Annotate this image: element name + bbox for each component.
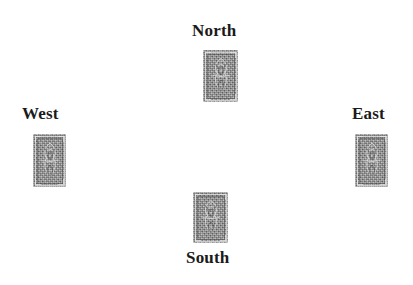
card-back-east[interactable] bbox=[355, 134, 388, 187]
seat-label-south: South bbox=[186, 249, 230, 267]
bridge-table-diagram: North bbox=[0, 0, 413, 285]
seat-label-west: West bbox=[22, 105, 59, 123]
card-back-south[interactable] bbox=[193, 192, 228, 243]
card-edge bbox=[193, 192, 228, 243]
card-edge bbox=[203, 50, 238, 102]
card-edge bbox=[355, 134, 388, 187]
seat-label-east: East bbox=[352, 105, 385, 123]
card-back-north[interactable] bbox=[203, 50, 238, 102]
seat-label-north: North bbox=[192, 22, 236, 40]
card-edge bbox=[33, 134, 66, 187]
card-back-west[interactable] bbox=[33, 134, 66, 187]
